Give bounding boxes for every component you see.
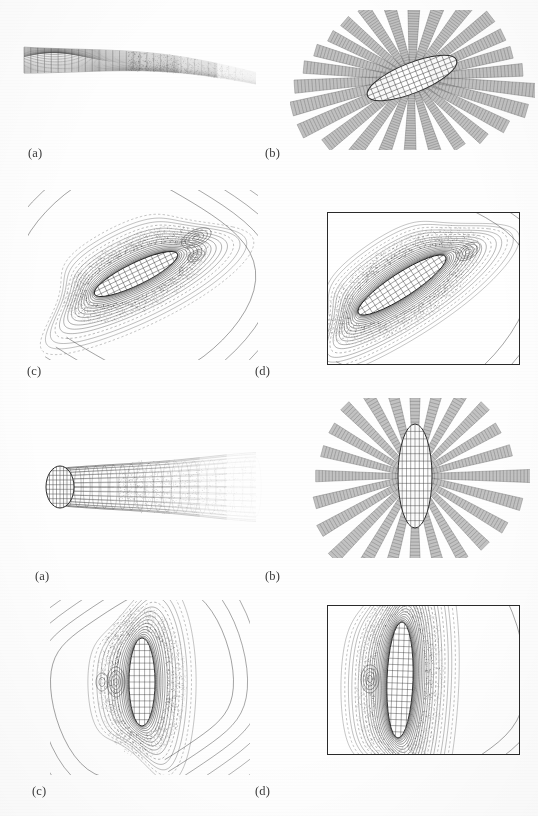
- panel-bottom-b-radial-ribbons: [300, 398, 530, 558]
- panel-bottom-a-surface-mesh: [8, 435, 266, 545]
- panel-top-b-radial-ribbons: [290, 10, 535, 150]
- panel-label-bottom-d: (d): [255, 784, 270, 799]
- panel-bottom-d-contour-boxed: [327, 605, 520, 755]
- panel-top-d-contour-boxed: [327, 212, 520, 365]
- panel-label-bottom-b: (b): [265, 569, 280, 584]
- figure-root: (a) (b) (c) (d) (a): [0, 0, 538, 816]
- panel-label-top-b: (b): [265, 146, 280, 161]
- panel-bottom-c-contour-field: [50, 600, 250, 775]
- panel-label-top-d: (d): [255, 364, 270, 379]
- panel-label-top-a: (a): [28, 146, 42, 161]
- panel-label-top-c: (c): [27, 364, 41, 379]
- panel-label-bottom-c: (c): [32, 784, 46, 799]
- panel-top-a-surface-mesh: [10, 18, 268, 138]
- panel-top-c-contour-field: [28, 190, 258, 360]
- panel-label-bottom-a: (a): [35, 569, 49, 584]
